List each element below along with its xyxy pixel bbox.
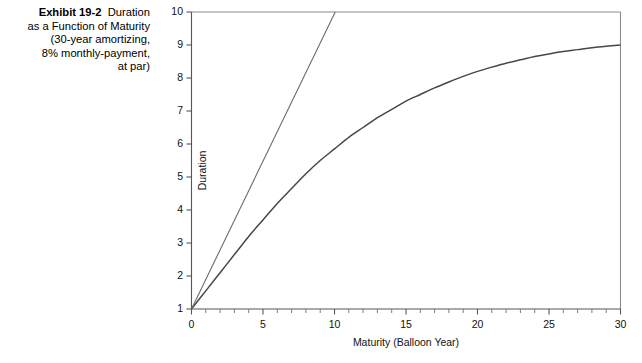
y-tick-label: 5 (177, 170, 183, 182)
x-tick-label: 5 (260, 318, 266, 330)
series-path-1 (192, 12, 336, 309)
x-tick-label: 20 (472, 318, 484, 330)
x-tick-label: 25 (543, 318, 555, 330)
x-tick-label: 0 (189, 318, 195, 330)
x-axis-title: Maturity (Balloon Year) (353, 336, 459, 348)
y-tick-label: 9 (177, 38, 183, 50)
y-axis-title: Duration (196, 151, 208, 191)
chart-canvas: 12345678910051015202530Maturity (Balloon… (0, 0, 642, 363)
duration-chart: 12345678910051015202530Maturity (Balloon… (0, 0, 642, 363)
y-tick-label: 2 (177, 269, 183, 281)
y-tick-label: 6 (177, 137, 183, 149)
y-tick-label: 4 (177, 203, 183, 215)
x-tick-label: 15 (400, 318, 412, 330)
x-tick-label: 10 (329, 318, 341, 330)
y-tick-label: 1 (177, 302, 183, 314)
y-tick-label: 10 (171, 5, 183, 17)
y-tick-label: 7 (177, 104, 183, 116)
x-tick-label: 30 (615, 318, 627, 330)
y-tick-label: 8 (177, 71, 183, 83)
y-tick-label: 3 (177, 236, 183, 248)
